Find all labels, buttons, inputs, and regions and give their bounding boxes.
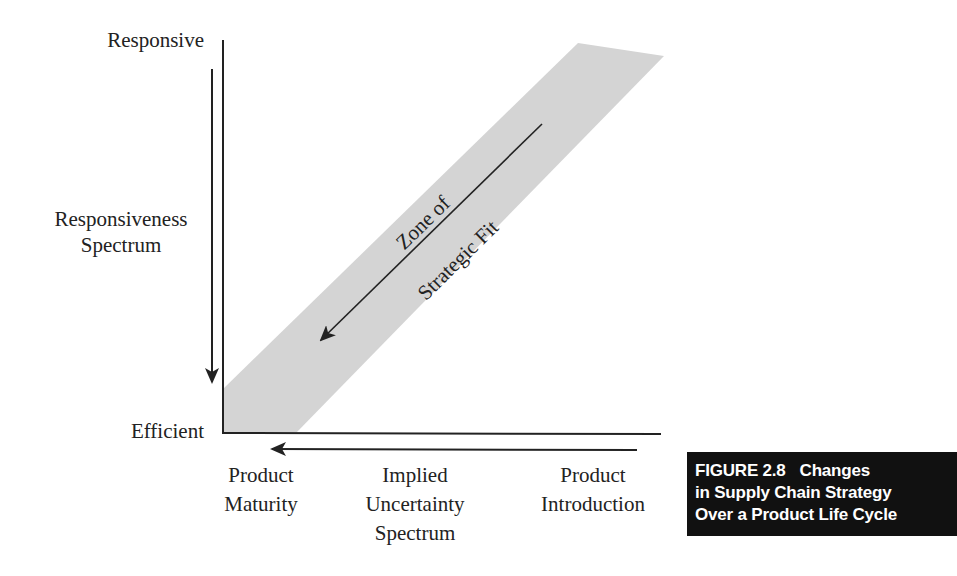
figure-caption: FIGURE 2.8Changes in Supply Chain Strate… xyxy=(687,452,957,536)
y-spectrum-label-line2: Spectrum xyxy=(36,232,206,258)
x-center-label-line2: Uncertainty xyxy=(345,491,485,517)
x-left-label-line1: Product xyxy=(206,462,316,488)
caption-line-3: Over a Product Life Cycle xyxy=(695,504,957,526)
x-axis xyxy=(222,433,661,434)
x-center-label-line3: Spectrum xyxy=(345,520,485,546)
y-top-label: Responsive xyxy=(84,27,204,53)
strategic-fit-arrow xyxy=(321,124,542,340)
caption-line-1: FIGURE 2.8Changes xyxy=(695,460,957,482)
caption-title-part1: Changes xyxy=(800,461,870,480)
zone-of-strategic-fit-band xyxy=(222,43,664,432)
x-right-label-line2: Introduction xyxy=(518,491,668,517)
x-right-label-line1: Product xyxy=(518,462,668,488)
x-center-label-line1: Implied xyxy=(345,462,485,488)
x-left-label-line2: Maturity xyxy=(206,491,316,517)
caption-line-2: in Supply Chain Strategy xyxy=(695,482,957,504)
y-spectrum-label-line1: Responsiveness xyxy=(36,206,206,232)
y-bottom-label: Efficient xyxy=(84,418,204,444)
uncertainty-arrow xyxy=(272,449,637,450)
figure-number: FIGURE 2.8 xyxy=(695,461,786,480)
